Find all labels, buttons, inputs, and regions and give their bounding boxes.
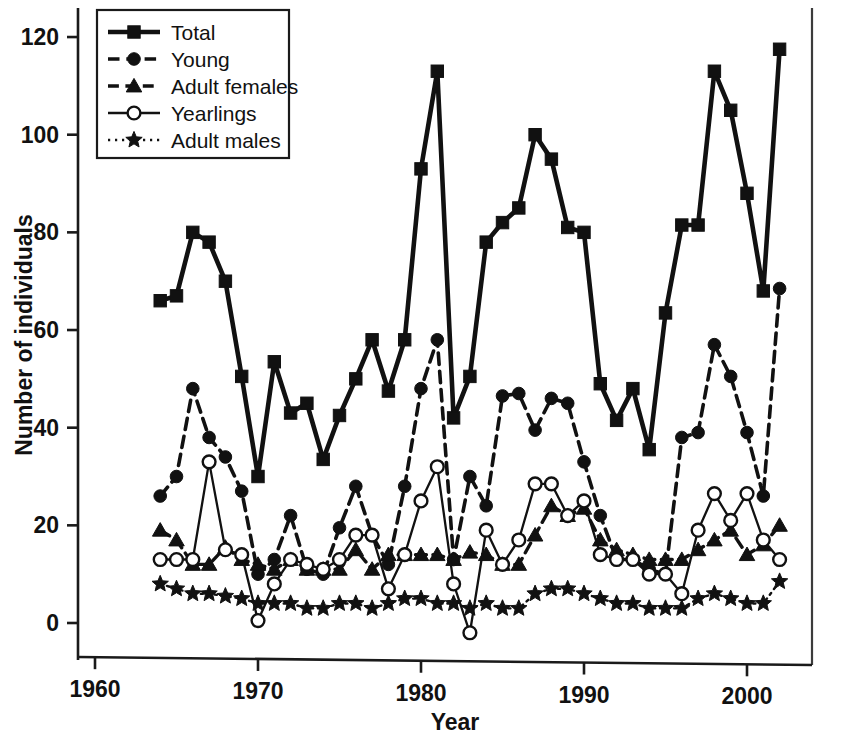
data-point-marker xyxy=(284,509,297,522)
y-axis-tick-label: 0 xyxy=(46,610,59,636)
legend-item-label: Total xyxy=(171,21,215,44)
data-point-marker xyxy=(543,580,559,596)
data-point-marker xyxy=(494,600,510,616)
legend-marker-icon xyxy=(128,26,140,38)
data-point-marker xyxy=(496,216,508,228)
x-axis-tick-label: 1960 xyxy=(69,676,120,702)
data-point-marker xyxy=(513,387,526,400)
data-point-marker xyxy=(464,370,476,382)
data-point-marker xyxy=(480,524,493,537)
data-point-marker xyxy=(741,426,754,439)
data-point-marker xyxy=(512,534,525,547)
x-axis-tick-label: 1990 xyxy=(558,682,609,708)
data-point-marker xyxy=(773,282,786,295)
data-point-marker xyxy=(592,590,608,606)
data-point-marker xyxy=(348,595,364,611)
data-point-marker xyxy=(415,382,428,395)
data-point-marker xyxy=(397,590,413,606)
data-point-marker xyxy=(529,477,542,490)
data-point-marker xyxy=(366,529,379,542)
series-line xyxy=(160,289,779,575)
data-point-marker xyxy=(154,490,167,503)
data-point-marker xyxy=(578,495,591,508)
data-point-marker xyxy=(445,595,461,611)
data-point-marker xyxy=(219,451,232,464)
data-point-marker xyxy=(643,443,655,455)
x-axis-title: Year xyxy=(431,709,480,735)
data-point-marker xyxy=(187,382,200,395)
data-point-marker xyxy=(170,553,183,566)
data-point-marker xyxy=(217,588,233,604)
data-point-marker xyxy=(675,587,688,600)
data-point-marker xyxy=(170,290,182,302)
data-point-marker xyxy=(333,409,345,421)
y-axis-title: Number of individuals xyxy=(11,214,37,456)
data-point-marker xyxy=(594,548,607,561)
data-point-marker xyxy=(724,370,737,383)
data-point-marker xyxy=(659,307,671,319)
data-point-marker xyxy=(529,424,542,437)
y-axis-tick-label: 40 xyxy=(33,415,59,441)
data-point-marker xyxy=(739,595,755,611)
x-axis-tick-label: 1970 xyxy=(232,678,283,704)
data-point-marker xyxy=(447,578,460,591)
data-point-marker xyxy=(561,397,574,410)
data-point-marker xyxy=(708,65,720,77)
data-point-marker xyxy=(203,236,215,248)
data-point-marker xyxy=(236,370,248,382)
data-point-marker xyxy=(235,485,248,498)
data-point-marker xyxy=(301,558,314,571)
data-point-marker xyxy=(527,585,543,601)
data-point-marker xyxy=(773,553,786,566)
data-point-marker xyxy=(692,219,704,231)
data-point-marker xyxy=(676,219,688,231)
data-point-marker xyxy=(772,518,788,532)
data-point-marker xyxy=(317,563,330,576)
data-point-marker xyxy=(594,509,607,522)
data-point-marker xyxy=(741,187,753,199)
data-point-marker xyxy=(627,553,640,566)
data-point-marker xyxy=(690,590,706,606)
data-point-marker xyxy=(415,163,427,175)
data-point-marker xyxy=(496,390,509,403)
data-point-marker xyxy=(333,521,346,534)
data-point-marker xyxy=(268,356,280,368)
data-point-marker xyxy=(187,226,199,238)
data-point-marker xyxy=(708,338,721,351)
data-point-marker xyxy=(168,580,184,596)
data-point-marker xyxy=(464,626,477,639)
chart-legend: TotalYoungAdult femalesYearlingsAdult ma… xyxy=(97,10,298,158)
data-point-marker xyxy=(610,414,622,426)
data-point-marker xyxy=(707,532,723,546)
chart-figure: 02040608010012019601970198019902000 Numb… xyxy=(0,0,843,741)
data-point-marker xyxy=(154,295,166,307)
data-point-marker xyxy=(366,334,378,346)
data-point-marker xyxy=(724,514,737,527)
data-point-marker xyxy=(186,553,199,566)
data-point-marker xyxy=(674,552,690,566)
legend-item-label: Adult females xyxy=(171,75,298,98)
data-point-marker xyxy=(659,568,672,581)
data-point-marker xyxy=(708,487,721,500)
line-chart-canvas: 02040608010012019601970198019902000 Numb… xyxy=(0,0,843,741)
data-point-marker xyxy=(625,595,641,611)
legend-item-label: Adult males xyxy=(171,129,281,152)
data-point-marker xyxy=(676,431,689,444)
data-point-marker xyxy=(725,104,737,116)
legend-marker-icon xyxy=(128,107,141,120)
data-point-marker xyxy=(250,557,266,571)
data-point-marker xyxy=(657,600,673,616)
data-point-marker xyxy=(234,590,250,606)
data-point-marker xyxy=(301,397,313,409)
data-point-marker xyxy=(608,595,624,611)
data-point-marker xyxy=(610,553,623,566)
data-point-marker xyxy=(562,221,574,233)
data-point-marker xyxy=(315,600,331,616)
data-point-marker xyxy=(447,412,459,424)
series-adult-females xyxy=(152,498,787,575)
data-point-marker xyxy=(771,573,787,589)
data-point-marker xyxy=(317,453,329,465)
data-point-marker xyxy=(185,585,201,601)
data-point-marker xyxy=(382,582,395,595)
data-point-marker xyxy=(331,595,347,611)
